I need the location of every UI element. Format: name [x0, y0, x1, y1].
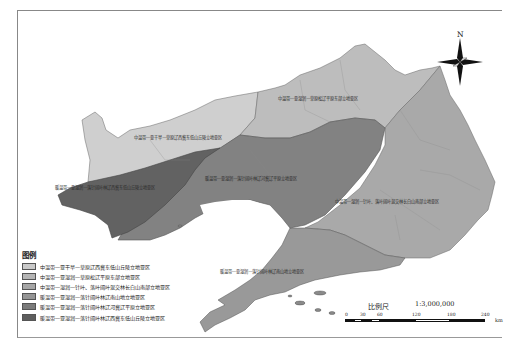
legend-label: 中温带—湿润—针叶、落叶阔叶混交林长白山南部立地亚区	[40, 283, 170, 290]
legend-swatch	[22, 293, 36, 300]
scale-tick: 0	[345, 312, 348, 317]
legend-swatch	[22, 314, 36, 321]
region-label-zw-semiarid: 中温带—亚干旱—草原辽西冀东低山丘陵立地亚区	[134, 134, 222, 141]
legend-label: 暖温带—亚湿润—落针阔叶林辽河冀辽平原立地亚区	[40, 303, 155, 310]
scale-tick: 240	[481, 312, 490, 317]
scale-unit: km	[495, 317, 503, 323]
legend-label: 中温带—亚干旱—草原辽西冀东低山丘陵立地亚区	[40, 263, 150, 270]
legend-item: 中温带—亚干旱—草原辽西冀东低山丘陵立地亚区	[22, 261, 170, 271]
scale-tick: 120	[412, 312, 421, 317]
legend: 图例 中温带—亚干旱—草原辽西冀东低山丘陵立地亚区 中温带—亚湿润—草原松辽平原…	[22, 249, 170, 322]
compass-rose-icon	[437, 38, 485, 92]
legend-swatch	[22, 273, 36, 280]
scale-ratio: 1:3,000,000	[415, 300, 454, 308]
legend-item: 中温带—湿润—针叶、落叶阔叶混交林长白山南部立地亚区	[22, 281, 170, 291]
legend-label: 中温带—亚湿润—草原松辽平原东部立地亚区	[40, 273, 140, 280]
scale-tick: 30	[360, 312, 366, 317]
scale-bar: 比例尺 1:3,000,000 0 30 60 120 180 240 km	[345, 298, 505, 328]
scale-title: 比例尺	[368, 301, 389, 311]
legend-title: 图例	[22, 249, 170, 260]
region-label-nw-liaohe: 暖温带—亚湿润—落针阔叶林辽河冀辽平原立地亚区	[205, 175, 297, 182]
legend-label: 暖温带—亚湿润—落针阔叶林辽南山地立地亚区	[40, 293, 145, 300]
scale-segment	[450, 319, 485, 322]
region-label-nw-liaoxi: 暖温带—亚湿润—落针阔叶林辽西冀东低山丘陵立地亚区	[55, 184, 155, 191]
legend-swatch	[22, 283, 36, 290]
legend-label: 暖温带—亚湿润—落针阔叶林辽西冀东低山丘陵立地亚区	[40, 314, 165, 321]
legend-item: 暖温带—亚湿润—落针阔叶林辽西冀东低山丘陵立地亚区	[22, 312, 170, 322]
scale-segment	[415, 319, 450, 322]
legend-swatch	[22, 303, 36, 310]
scale-segment	[380, 319, 415, 322]
legend-item: 暖温带—亚湿润—落针阔叶林辽南山地立地亚区	[22, 292, 170, 302]
scale-tick: 180	[447, 312, 456, 317]
region-label-zw-humid: 中温带—湿润—针叶、落叶阔叶混交林长白山南部立地亚区	[335, 198, 439, 205]
legend-item: 暖温带—亚湿润—落针阔叶林辽河冀辽平原立地亚区	[22, 302, 170, 312]
scale-segment	[345, 319, 354, 322]
region-label-zw-semihumid: 中温带—亚湿润—草原松辽平原东部立地亚区	[278, 95, 358, 102]
scale-segment	[371, 319, 380, 322]
legend-item: 中温带—亚湿润—草原松辽平原东部立地亚区	[22, 271, 170, 281]
scale-segment	[362, 319, 371, 322]
scale-segment	[354, 319, 362, 322]
scale-tick: 60	[377, 312, 383, 317]
region-label-nw-liaonan: 暖温带—亚湿润—落针阔叶林辽南山地立地亚区	[220, 268, 304, 275]
legend-swatch	[22, 263, 36, 270]
